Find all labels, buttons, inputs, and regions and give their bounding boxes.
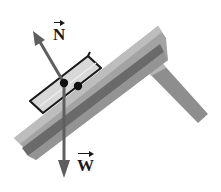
center-of-mass-point <box>60 79 68 87</box>
physics-diagram: N W <box>0 0 221 192</box>
vector-arrow-icon <box>53 19 65 25</box>
normal-force-label: N <box>53 26 65 43</box>
ramp-support-leg <box>148 64 208 123</box>
vector-arrow-icon <box>77 150 94 156</box>
contact-point <box>74 82 82 90</box>
weight-label: W <box>77 157 94 174</box>
incline-illustration <box>0 0 221 192</box>
